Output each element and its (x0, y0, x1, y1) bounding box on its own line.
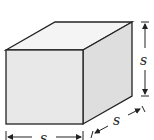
cube-diagram: s s s (0, 0, 154, 140)
cube-front-face (6, 50, 83, 124)
height-label: s (140, 52, 147, 68)
height-dimension: s (140, 22, 149, 96)
width-label: s (40, 130, 47, 140)
width-dimension: s (6, 130, 83, 140)
depth-label: s (113, 112, 120, 128)
